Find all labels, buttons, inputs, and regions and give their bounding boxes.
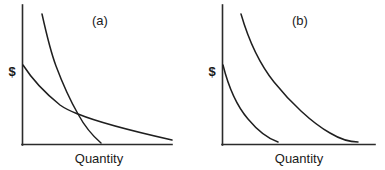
- panel-b-outer-curve: [241, 14, 358, 142]
- panel-b-tag: (b): [292, 13, 308, 28]
- panel-a-shallow-curve: [23, 65, 172, 140]
- panel-b-x-axis-label: Quantity: [275, 151, 324, 166]
- panel-a-steep-curve: [42, 14, 101, 143]
- panel-a-tag: (a): [92, 13, 108, 28]
- panel-a: (a) $ Quantity: [8, 5, 172, 166]
- panel-a-y-axis-label: $: [8, 64, 16, 79]
- panel-b: (b) $ Quantity: [208, 5, 375, 166]
- figure-container: (a) $ Quantity (b) $ Quantity: [0, 0, 385, 170]
- panel-b-y-axis-label: $: [208, 64, 216, 79]
- panel-a-x-axis-label: Quantity: [75, 151, 124, 166]
- two-panel-demand-curve-figure: (a) $ Quantity (b) $ Quantity: [0, 0, 385, 170]
